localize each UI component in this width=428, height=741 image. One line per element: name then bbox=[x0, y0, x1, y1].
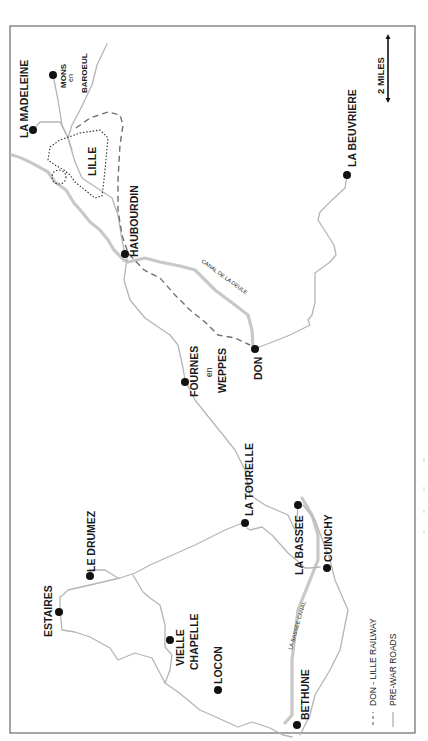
label-fournes-line1: FOURNES bbox=[188, 346, 200, 397]
label-le-drumez: LE DRUMEZ bbox=[85, 510, 97, 572]
legend-item-roads: PRE-WAR ROADS bbox=[388, 633, 398, 727]
label-cuinchy: CUINCHY bbox=[322, 514, 334, 562]
label-la-tourelle: LA TOURELLE bbox=[243, 443, 255, 516]
historical-map: LA MADELEINE MONS en BAROEUL LILLE HAUBO… bbox=[0, 0, 428, 741]
label-vielle-chapelle-line1: VIELLE bbox=[174, 629, 186, 666]
label-fournes-line3: WEPPES bbox=[216, 348, 228, 393]
label-la-bassee-canal: LA BASSEE CANAL bbox=[287, 601, 307, 651]
label-don: DON bbox=[252, 357, 264, 380]
town-marker-cuinchy bbox=[323, 564, 331, 572]
town-marker-la-bassee bbox=[294, 501, 302, 509]
town-marker-vielle-chapelle bbox=[166, 636, 174, 644]
town-marker-la-madeleine bbox=[29, 126, 37, 134]
town-marker-locon bbox=[214, 686, 222, 694]
label-fournes-line2: en bbox=[204, 367, 214, 377]
town-marker-bethune bbox=[293, 721, 301, 729]
label-mons-line2: en bbox=[67, 74, 74, 82]
town-marker-don bbox=[251, 345, 259, 353]
scale-bar-label: 2 MILES bbox=[375, 57, 386, 94]
town-marker-estaires bbox=[55, 608, 63, 616]
don-lille-railway bbox=[76, 112, 250, 345]
town-marker-mons-en-baroeul bbox=[49, 71, 57, 79]
place-labels: LA MADELEINE MONS en BAROEUL LILLE HAUBO… bbox=[18, 53, 358, 720]
legend-label-roads: PRE-WAR ROADS bbox=[388, 633, 398, 706]
lille-fortifications bbox=[48, 130, 108, 198]
scale-bar: 2 MILES bbox=[375, 34, 391, 103]
label-haubourdin: HAUBOURDIN bbox=[128, 185, 140, 257]
legend-item-railway: DON - LILLE RAILWAY bbox=[368, 618, 378, 725]
label-mons-line3: BAROEUL bbox=[80, 53, 89, 93]
town-marker-le-drumez bbox=[86, 572, 94, 580]
town-marker-la-tourelle bbox=[241, 519, 249, 527]
label-la-madeleine: LA MADELEINE bbox=[18, 60, 30, 138]
label-vielle-chapelle-line2: CHAPELLE bbox=[188, 613, 200, 670]
label-bethune: BETHUNE bbox=[299, 669, 311, 720]
map-legend: DON - LILLE RAILWAY PRE-WAR ROADS bbox=[368, 618, 398, 727]
label-canal-de-la-deule: CANAL DE LA DEULE bbox=[200, 258, 248, 295]
town-marker-la-beuvriere bbox=[343, 171, 351, 179]
label-locon: LOCON bbox=[212, 646, 224, 684]
label-la-bassee: LA BASSEE bbox=[293, 515, 305, 575]
label-la-beuvriere: LA BEUVRIERE bbox=[346, 89, 358, 167]
legend-label-railway: DON - LILLE RAILWAY bbox=[368, 618, 378, 706]
label-estaires: ESTAIRES bbox=[42, 585, 54, 637]
label-lille: LILLE bbox=[86, 147, 98, 176]
